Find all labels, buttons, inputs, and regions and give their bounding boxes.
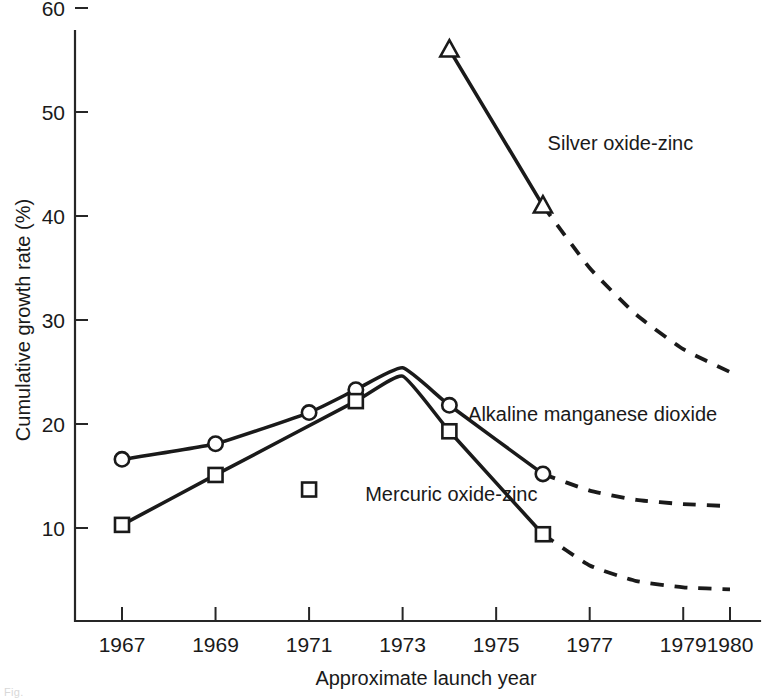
x-tick-label: 1969: [192, 633, 239, 656]
data-point-square: [349, 394, 363, 408]
x-tick-label: 1973: [379, 633, 426, 656]
figure-caption: Fig.: [4, 686, 24, 698]
y-tick-label: 50: [42, 101, 65, 124]
y-tick-label: 60: [42, 0, 65, 20]
y-axis-title: Cumulative growth rate (%): [12, 199, 34, 441]
series-label: Alkaline manganese dioxide: [468, 403, 717, 425]
series-solid-line: [449, 50, 543, 206]
series-dashed-line: [543, 534, 730, 589]
axis-lines: [75, 31, 760, 621]
axes: [75, 31, 760, 621]
data-point-circle: [208, 437, 222, 451]
x-tick-label: 1980: [707, 633, 754, 656]
line-chart: 1020304050601967196919711973197519771979…: [0, 0, 777, 699]
series-1: Silver oxide-zinc: [440, 40, 730, 372]
data-point-circle: [302, 405, 316, 419]
series-label: Silver oxide-zinc: [548, 132, 694, 154]
data-point-circle: [115, 452, 129, 466]
x-tick-label: 1971: [286, 633, 333, 656]
data-point-square: [442, 424, 456, 438]
x-tick-label: 1967: [99, 633, 146, 656]
y-tick-label: 20: [42, 413, 65, 436]
x-axis-ticks: 19671969197119731975197719791980: [99, 607, 754, 656]
data-point-square: [209, 468, 223, 482]
x-tick-label: 1977: [566, 633, 613, 656]
y-tick-label: 40: [42, 205, 65, 228]
data-point-square: [302, 483, 316, 497]
data-point-square: [536, 527, 550, 541]
y-tick-label: 10: [42, 517, 65, 540]
data-point-circle: [442, 398, 456, 412]
series-dashed-line: [543, 206, 730, 372]
x-axis-title: Approximate launch year: [315, 667, 537, 689]
series-dashed-line: [543, 474, 730, 506]
data-point-triangle: [440, 40, 458, 56]
series-label: Mercuric oxide-zinc: [365, 483, 537, 505]
x-tick-label: 1979: [660, 633, 707, 656]
y-tick-label: 30: [42, 309, 65, 332]
data-point-circle: [536, 467, 550, 481]
x-tick-label: 1975: [473, 633, 520, 656]
y-axis-ticks: 102030405060: [42, 0, 88, 540]
figure-container: 1020304050601967196919711973197519771979…: [0, 0, 777, 699]
data-point-square: [115, 518, 129, 532]
